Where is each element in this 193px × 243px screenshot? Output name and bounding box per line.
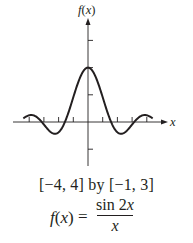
function-graph: f(x) x (0, 0, 193, 175)
x-axis-arrow-icon (161, 120, 168, 125)
formula-denominator: x (96, 217, 134, 235)
y-tick-marks (88, 40, 93, 149)
formula-numerator: sin 2x (96, 196, 134, 214)
formula-fraction: sin 2x x (96, 196, 134, 235)
viewing-window-label: [−4, 4] by [−1, 3] (0, 176, 193, 194)
fraction-bar (97, 215, 133, 216)
formula-equals: = (78, 207, 88, 227)
function-formula: f(x) = sin 2x x (0, 196, 193, 240)
formula-lhs: f(x) (50, 208, 74, 228)
y-axis-label: f(x) (78, 3, 95, 17)
x-axis-label: x (169, 115, 176, 129)
y-axis-arrow-icon (86, 18, 91, 25)
